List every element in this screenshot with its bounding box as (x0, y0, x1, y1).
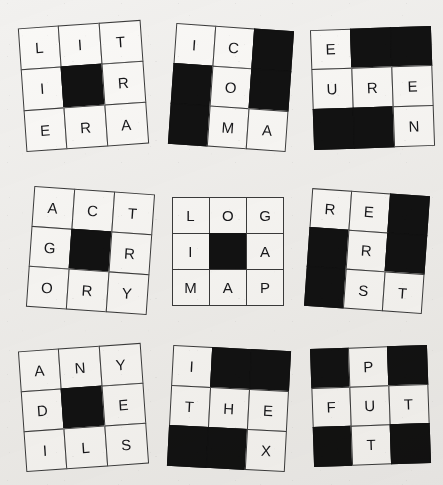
grid-cell-letter[interactable]: A (31, 185, 75, 229)
grid-cell-blocked (209, 233, 247, 270)
puzzle-grid: PFUTT (310, 345, 430, 466)
grid-cell-letter[interactable]: H (208, 387, 250, 430)
grid-cell-letter[interactable]: R (64, 105, 109, 150)
grid-cell-letter[interactable]: F (311, 386, 352, 427)
grid-cell-blocked (61, 63, 106, 108)
grid-cell-blocked (309, 347, 350, 388)
grid-cell-blocked (210, 347, 252, 390)
grid-cell-blocked (353, 106, 396, 148)
grid-cell-letter[interactable]: T (98, 19, 143, 64)
grid-cell-blocked (389, 422, 430, 463)
grid-cell-letter[interactable]: E (23, 107, 68, 152)
grid-cell-letter[interactable]: E (247, 389, 289, 432)
grid-cell-letter[interactable]: D (20, 388, 64, 432)
grid-cell-letter[interactable]: A (246, 108, 289, 152)
grid-cell-letter[interactable]: G (246, 197, 284, 234)
grid-cell-letter[interactable]: E (309, 28, 352, 70)
grid-cell-letter[interactable]: N (58, 345, 102, 389)
grid-cell-blocked (312, 425, 353, 466)
grid-cell-letter[interactable]: A (104, 102, 149, 147)
grid-cell-letter[interactable]: O (209, 197, 247, 234)
grid-cell-letter[interactable]: R (309, 188, 352, 231)
grid-cell-blocked (350, 27, 393, 69)
grid-cell-letter[interactable]: P (348, 346, 389, 387)
grid-cell-blocked (68, 228, 112, 272)
grid-cell-letter[interactable]: T (351, 424, 392, 465)
grid-cell-letter[interactable]: X (245, 429, 287, 472)
grid-cell-blocked (312, 108, 355, 150)
puzzle-grid: ICOMA (168, 23, 294, 151)
grid-cell-letter[interactable]: P (246, 269, 284, 306)
grid-cell-blocked (387, 193, 430, 236)
grid-cell-letter[interactable]: M (172, 269, 210, 306)
grid-cell-blocked (249, 349, 291, 392)
grid-cell-letter[interactable]: M (207, 105, 250, 149)
grid-cell-blocked (61, 385, 105, 429)
grid-cell-letter[interactable]: O (25, 265, 69, 309)
grid-cell-letter[interactable]: T (169, 385, 211, 428)
grid-cell-letter[interactable]: C (212, 25, 255, 69)
grid-cell-letter[interactable]: Y (105, 271, 149, 315)
grid-cell-letter[interactable]: N (393, 105, 436, 147)
grid-cell-letter[interactable]: T (381, 271, 424, 314)
puzzle-grid: LITIRERA (18, 20, 148, 152)
grid-cell-letter[interactable]: Y (99, 342, 143, 386)
grid-cell-letter[interactable]: S (342, 269, 385, 312)
puzzle-grid: ANYDEILS (18, 343, 148, 472)
grid-cell-letter[interactable]: I (23, 428, 67, 472)
grid-cell-letter[interactable]: U (311, 68, 354, 110)
grid-cell-blocked (306, 227, 349, 270)
grid-cell-letter[interactable]: I (172, 233, 210, 270)
grid-cell-letter[interactable]: G (28, 225, 72, 269)
grid-cell-letter[interactable]: E (391, 65, 434, 107)
puzzle-grid: LOGIAMAP (172, 197, 284, 306)
puzzle-grids-container: LITIRERAICOMAEURENACTGRORYLOGIAMAPRERSTA… (0, 0, 443, 485)
grid-cell-blocked (166, 425, 208, 468)
grid-cell-letter[interactable]: E (101, 383, 145, 427)
grid-cell-letter[interactable]: L (64, 426, 108, 470)
grid-cell-letter[interactable]: A (209, 269, 247, 306)
grid-cell-letter[interactable]: R (108, 231, 152, 275)
grid-cell-letter[interactable]: S (104, 423, 148, 467)
grid-cell-blocked (384, 232, 427, 275)
puzzle-grid: ITHEX (167, 345, 291, 472)
grid-cell-letter[interactable]: R (351, 66, 394, 108)
puzzle-grid: RERST (304, 188, 429, 314)
puzzle-grid: EUREN (310, 26, 435, 149)
grid-cell-letter[interactable]: L (17, 25, 62, 70)
grid-cell-letter[interactable]: U (349, 385, 390, 426)
grid-cell-blocked (170, 62, 213, 106)
grid-cell-letter[interactable]: L (172, 197, 210, 234)
grid-cell-blocked (249, 68, 292, 112)
puzzle-grid: ACTGRORY (26, 186, 154, 314)
grid-cell-letter[interactable]: I (58, 22, 103, 67)
grid-cell-letter[interactable]: A (246, 233, 284, 270)
grid-cell-letter[interactable]: C (71, 188, 115, 232)
grid-cell-letter[interactable]: R (345, 229, 388, 272)
grid-cell-letter[interactable]: T (111, 191, 155, 235)
grid-cell-letter[interactable]: O (209, 65, 252, 109)
grid-cell-letter[interactable]: I (171, 344, 213, 387)
grid-cell-blocked (387, 344, 428, 385)
grid-cell-blocked (167, 102, 210, 146)
grid-cell-letter[interactable]: A (17, 348, 61, 392)
grid-cell-blocked (251, 28, 294, 72)
grid-cell-blocked (390, 25, 433, 67)
grid-cell-letter[interactable]: E (348, 190, 391, 233)
grid-cell-blocked (303, 266, 346, 309)
grid-cell-letter[interactable]: R (101, 61, 146, 106)
grid-cell-letter[interactable]: I (20, 66, 65, 111)
grid-cell-letter[interactable]: R (65, 268, 109, 312)
grid-cell-letter[interactable]: I (173, 22, 216, 66)
grid-cell-blocked (206, 427, 248, 470)
grid-cell-letter[interactable]: T (388, 383, 429, 424)
